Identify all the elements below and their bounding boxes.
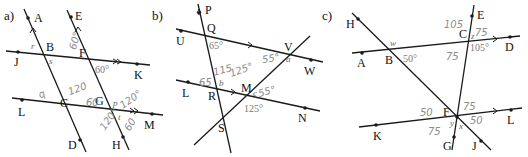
label-B: B (46, 40, 54, 54)
parallel-lines-diagram: a) A E B F J K C G L M D H 60° r s (0, 0, 528, 157)
var-x: x (458, 121, 463, 131)
point-U (179, 29, 183, 33)
var-b: b (219, 78, 224, 88)
label-G: G (443, 139, 452, 153)
point-J (16, 50, 20, 54)
label-U: U (176, 34, 185, 48)
label-D: D (505, 40, 514, 54)
point-H (121, 135, 125, 139)
label-J: J (14, 55, 19, 69)
label-S: S (218, 121, 225, 135)
label-D: D (68, 138, 77, 152)
point-K (374, 123, 378, 127)
angle-125: 125° (244, 103, 263, 114)
label-C: C (60, 96, 68, 110)
panel-b: b) P Q U V W L R M N S 65° 125° a b c 55… (152, 3, 323, 153)
label-V: V (284, 40, 293, 54)
label-B: B (385, 53, 393, 67)
handwritten-note: q (37, 88, 47, 101)
point-D (508, 35, 512, 39)
label-A: A (34, 11, 43, 25)
label-E: E (477, 8, 484, 22)
point-E (69, 15, 73, 19)
label-A: A (357, 56, 366, 70)
var-s: s (49, 56, 53, 66)
handwritten-note: 55° (257, 84, 277, 99)
angle-60: 60° (95, 64, 109, 75)
label-M: M (241, 81, 252, 95)
point-P (197, 11, 201, 15)
handwritten-note: 50 (470, 115, 483, 126)
angle-105: 105° (470, 42, 489, 53)
angle-65: 65° (209, 40, 223, 51)
label-K: K (134, 68, 143, 82)
label-K: K (373, 129, 382, 143)
var-w: w (390, 38, 396, 48)
point-H (356, 17, 360, 21)
panel-a: a) A E B F J K C G L M D H 60° r s (4, 8, 163, 152)
point-N (303, 106, 307, 110)
handwritten-note: 55° (261, 51, 280, 65)
var-y: y (449, 118, 454, 128)
panel-c-label: c) (322, 8, 332, 23)
handwritten-note: 105 (444, 19, 463, 30)
handwritten-note: 120° (118, 88, 144, 111)
label-N: N (298, 111, 307, 125)
point-L (186, 80, 190, 84)
point-M (150, 112, 154, 116)
handwritten-note: 75 (475, 27, 488, 38)
handwritten-note: 65 (199, 77, 212, 88)
panel-b-label: b) (152, 8, 163, 23)
point-D (78, 138, 82, 142)
handwritten-note: 75 (463, 101, 476, 112)
label-P: P (205, 3, 212, 17)
handwritten-note: 60 (122, 116, 138, 133)
point-K (135, 62, 139, 66)
label-W: W (304, 64, 316, 78)
label-M: M (144, 118, 155, 132)
point-J (479, 139, 483, 143)
handwritten-note: 125° (228, 60, 254, 79)
label-L: L (507, 113, 514, 127)
point-W (309, 58, 313, 62)
panel-c: c) H A B C D E F K L G J 50° 105° w y x … (322, 5, 522, 153)
line-JK (6, 51, 150, 65)
point-F (455, 115, 459, 119)
label-F: F (79, 46, 86, 60)
line-UW (176, 29, 323, 62)
label-R: R (208, 89, 216, 103)
handwritten-note: 120 (67, 80, 89, 97)
handwritten-note: 75 (446, 51, 459, 62)
point-E (470, 14, 474, 18)
label-E: E (75, 9, 82, 23)
handwritten-note: 60 (86, 97, 99, 108)
angle-50: 50° (403, 53, 417, 64)
label-J: J (472, 139, 477, 153)
point-A (360, 51, 364, 55)
handwritten-note: 50 (420, 107, 433, 118)
point-L (509, 108, 513, 112)
var-r: r (31, 41, 35, 51)
var-a: a (286, 54, 291, 64)
point-A (26, 16, 30, 20)
panel-a-label: a) (4, 8, 14, 23)
var-p: p (112, 98, 118, 108)
label-Q: Q (207, 21, 216, 35)
label-L: L (182, 86, 189, 100)
handwritten-note: 75 (428, 126, 441, 137)
point-L (20, 98, 24, 102)
label-L: L (18, 105, 25, 119)
label-H: H (112, 138, 121, 152)
point-G (452, 135, 456, 139)
label-F: F (443, 105, 450, 119)
label-H: H (346, 17, 355, 31)
